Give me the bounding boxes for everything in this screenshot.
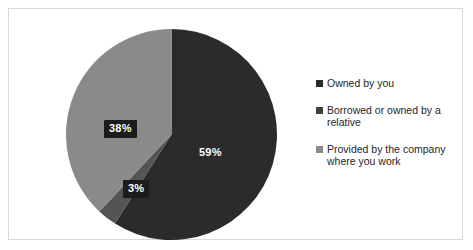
legend-item-borrowed-or-owned-by-relative[interactable]: Borrowed or owned by a relative: [316, 104, 456, 129]
pie-data-label-borrowed-or-owned-by-relative: 3%: [123, 180, 149, 198]
chart-frame: 59% 38% 3% Owned by you Borrowed or owne…: [8, 8, 463, 240]
legend-swatch-icon: [316, 107, 323, 114]
pie-chart-svg: [66, 29, 277, 240]
legend-swatch-icon: [316, 146, 323, 153]
legend-item-label: Owned by you: [327, 77, 394, 90]
legend-item-provided-by-company[interactable]: Provided by the company where you work: [316, 143, 456, 168]
legend-item-label: Borrowed or owned by a relative: [327, 104, 456, 129]
pie-data-label-provided-by-company: 38%: [104, 120, 137, 138]
pie-data-label-owned-by-you: 59%: [199, 147, 222, 158]
pie-chart: 59% 38% 3%: [66, 29, 277, 240]
chart-legend: Owned by you Borrowed or owned by a rela…: [316, 77, 456, 168]
legend-item-owned-by-you[interactable]: Owned by you: [316, 77, 456, 90]
chart-canvas: 59% 38% 3% Owned by you Borrowed or owne…: [0, 0, 473, 250]
legend-item-label: Provided by the company where you work: [327, 143, 456, 168]
legend-swatch-icon: [316, 80, 323, 87]
pie-slices: [66, 29, 277, 240]
